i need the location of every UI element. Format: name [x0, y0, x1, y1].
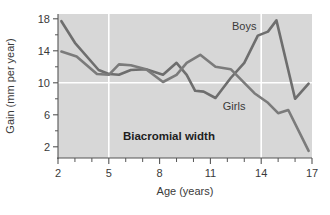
- biacromial-width-line-chart: 26101418258111417Age (years)Gain (mm per…: [0, 0, 330, 215]
- x-tick-label: 17: [306, 167, 318, 179]
- x-tick-label: 14: [255, 167, 267, 179]
- series-label-girls: Girls: [223, 100, 246, 112]
- x-tick-label: 11: [205, 167, 216, 179]
- series-label-boys: Boys: [232, 20, 257, 32]
- y-axis-title: Gain (mm per year): [4, 38, 16, 133]
- y-tick-label: 6: [44, 109, 50, 121]
- y-tick-label: 10: [38, 77, 50, 89]
- x-tick-label: 2: [55, 167, 61, 179]
- x-axis-ticks: 258111417: [55, 158, 318, 179]
- y-axis-ticks: 26101418: [38, 13, 58, 153]
- chart-annotation-title: Biacromial width: [123, 130, 215, 142]
- y-tick-label: 2: [44, 141, 50, 153]
- x-tick-label: 5: [106, 167, 112, 179]
- y-tick-label: 18: [38, 13, 50, 25]
- y-tick-label: 14: [38, 45, 50, 57]
- x-tick-label: 8: [157, 167, 163, 179]
- chart-figure: 26101418258111417Age (years)Gain (mm per…: [0, 0, 330, 215]
- x-axis-title: Age (years): [157, 185, 214, 197]
